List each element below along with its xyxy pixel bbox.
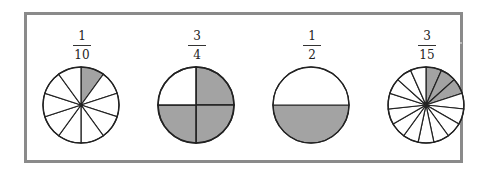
fraction-item-1-10: 1 10 [27,15,137,160]
fraction-bar [73,45,91,46]
pie-circle [41,65,121,145]
fraction-item-3-4: 3 4 [142,15,252,160]
denominator: 15 [372,48,482,62]
numerator: 1 [27,29,137,43]
numerator: 1 [257,29,367,43]
fraction-label: 3 15 [372,29,482,62]
fraction-item-1-2: 1 2 [257,15,367,160]
slice [273,67,349,105]
fraction-label: 1 2 [257,29,367,62]
denominator: 2 [257,48,367,62]
fraction-label: 3 4 [142,29,252,62]
fraction-item-3-15: 3 15 [372,15,482,160]
numerator: 3 [142,29,252,43]
numerator: 3 [372,29,482,43]
pie-circle [271,65,351,145]
pie-circle [386,65,466,145]
fraction-bar [303,45,321,46]
fraction-bar [188,45,206,46]
shaded-slice [273,105,349,143]
denominator: 4 [142,48,252,62]
fraction-bar [418,45,436,46]
denominator: 10 [27,48,137,62]
stray-mark [460,42,462,44]
fraction-label: 1 10 [27,29,137,62]
figure-frame: 1 10 3 4 1 2 3 15 [24,12,463,163]
pie-circle [156,65,236,145]
